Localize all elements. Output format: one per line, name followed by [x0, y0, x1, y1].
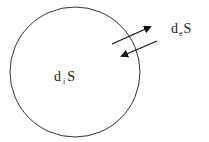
internal-entropy-label: diS: [54, 69, 75, 86]
outward-arrow: [112, 27, 150, 44]
exchange-entropy-label: deS: [171, 21, 191, 38]
inward-arrow: [122, 41, 157, 56]
entropy-diagram: diS deS: [0, 0, 209, 142]
